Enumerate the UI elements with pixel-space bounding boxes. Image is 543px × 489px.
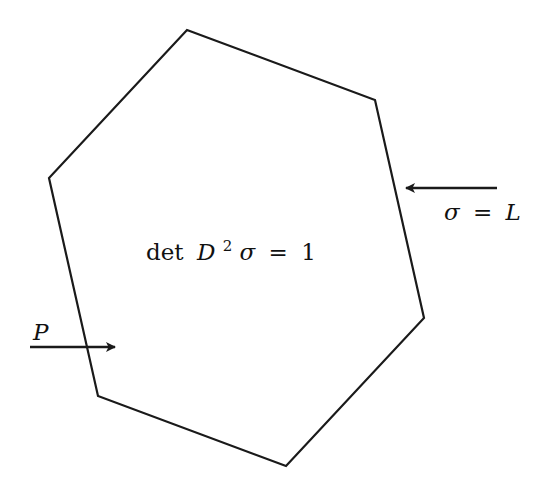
hessian-exponent: 2 xyxy=(223,237,233,255)
boundary-rhs: L xyxy=(505,199,521,225)
boundary-sigma: σ xyxy=(444,199,461,225)
sigma-symbol: σ xyxy=(240,239,257,265)
hexagon-diagram: det D 2 σ = 1 σ = L P xyxy=(0,0,543,489)
hessian-symbol: D xyxy=(196,239,215,265)
monge-ampere-equation: det D 2 σ = 1 xyxy=(146,230,316,265)
rhs-value: 1 xyxy=(301,239,316,265)
boundary-equals: = xyxy=(473,199,492,225)
equals-sign: = xyxy=(269,239,288,265)
boundary-condition-label: σ = L xyxy=(444,199,521,225)
det-operator: det xyxy=(146,239,184,265)
point-label: P xyxy=(32,319,49,345)
